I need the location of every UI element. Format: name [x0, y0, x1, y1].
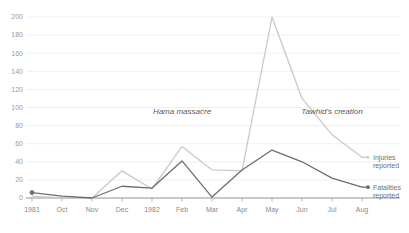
x-axis-tick-label: Apr	[237, 206, 249, 214]
x-axis-tick-label: Jul	[328, 206, 337, 213]
series-end-marker	[367, 156, 370, 159]
legend-label: Injuries	[373, 154, 396, 162]
x-axis-tick-label: May	[265, 206, 279, 214]
x-axis-tick-label: Nov	[86, 206, 99, 213]
series-start-marker	[30, 190, 35, 195]
y-axis-tick-label: 100	[11, 104, 23, 111]
chart-annotation-label: Tawhid's creation	[301, 107, 363, 116]
legend-label: reported	[373, 162, 399, 170]
x-axis-tick-label: 1982	[144, 206, 160, 213]
chart-legend: InjuriesreportedFatalitiesreported	[373, 154, 402, 200]
y-axis-tick-label: 60	[15, 140, 23, 147]
x-axis-tick-label: Jun	[296, 206, 307, 213]
y-axis-tick-label: 180	[11, 31, 23, 38]
x-axis-tick-label: Feb	[176, 206, 188, 213]
y-axis-tick-label: 20	[15, 176, 23, 183]
line-chart: 020406080100120140160180200 1981OctNovDe…	[0, 0, 409, 233]
chart-annotation-label: Hama massacre	[153, 107, 212, 116]
x-axis-tick-label: Dec	[116, 206, 129, 213]
y-axis-tick-label: 80	[15, 122, 23, 129]
series-end-marker	[366, 185, 370, 189]
x-axis-tick-label: Oct	[57, 206, 68, 213]
legend-label: reported	[373, 192, 399, 200]
x-axis-tick-label: Aug	[356, 206, 369, 214]
series-line	[32, 150, 362, 198]
y-axis-tick-label: 40	[15, 158, 23, 165]
y-axis-tick-label: 200	[11, 13, 23, 20]
y-axis-tick-label: 0	[19, 194, 23, 201]
y-axis-tick-labels: 020406080100120140160180200	[11, 13, 23, 201]
legend-label: Fatalities	[373, 184, 402, 191]
y-axis-tick-label: 160	[11, 50, 23, 57]
annotations-group: Hama massacreTawhid's creation	[153, 107, 363, 116]
x-axis-tick-label: Mar	[206, 206, 219, 213]
gridlines-group	[26, 17, 400, 180]
y-axis-tick-label: 120	[11, 86, 23, 93]
x-axis-tick-label: 1981	[24, 206, 40, 213]
x-axis-tick-labels: 1981OctNovDec1982FebMarAprMayJunJulAug	[24, 206, 368, 214]
y-axis-tick-label: 140	[11, 68, 23, 75]
chart-plot-area: 020406080100120140160180200 1981OctNovDe…	[0, 0, 409, 233]
